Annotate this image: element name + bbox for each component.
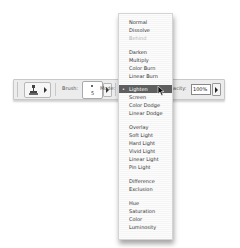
toolbar-grip[interactable] <box>17 82 18 97</box>
menu-item-dissolve[interactable]: Dissolve <box>119 26 172 34</box>
menu-item-luminosity[interactable]: Luminosity <box>119 223 172 231</box>
mode-label: Mode: <box>100 85 115 91</box>
opacity-slider-button[interactable] <box>212 83 221 96</box>
brush-tip-icon <box>91 85 93 87</box>
menu-item-linear-dodge[interactable]: Linear Dodge <box>119 109 172 117</box>
menu-item-darken[interactable]: Darken <box>119 48 172 56</box>
menu-item-linear-burn[interactable]: Linear Burn <box>119 72 172 80</box>
menu-item-vivid-light[interactable]: Vivid Light <box>119 147 172 155</box>
menu-item-pin-light[interactable]: Pin Light <box>119 163 172 171</box>
menu-item-exclusion[interactable]: Exclusion <box>119 185 172 193</box>
checkmark-icon: • <box>122 85 125 93</box>
menu-item-normal[interactable]: Normal <box>119 18 172 26</box>
menu-item-hue[interactable]: Hue <box>119 199 172 207</box>
menu-item-saturation[interactable]: Saturation <box>119 207 172 215</box>
menu-item-color-dodge[interactable]: Color Dodge <box>119 101 172 109</box>
menu-item-difference[interactable]: Difference <box>119 177 172 185</box>
blend-mode-menu: Normal Dissolve Behind Darken Multiply C… <box>118 13 173 240</box>
menu-item-color-burn[interactable]: Color Burn <box>119 64 172 72</box>
menu-item-multiply[interactable]: Multiply <box>119 56 172 64</box>
brush-label: Brush: <box>62 85 78 91</box>
menu-item-color[interactable]: Color <box>119 215 172 223</box>
menu-item-behind: Behind <box>119 34 172 42</box>
opacity-input[interactable]: 100% <box>191 84 211 95</box>
menu-item-overlay[interactable]: Overlay <box>119 123 172 131</box>
mouse-pointer-icon <box>157 86 165 96</box>
menu-item-soft-light[interactable]: Soft Light <box>119 131 172 139</box>
dropdown-arrow-icon <box>44 87 47 93</box>
menu-item-linear-light[interactable]: Linear Light <box>119 155 172 163</box>
clone-stamp-icon <box>29 85 38 95</box>
toolbar-divider <box>55 83 56 96</box>
menu-item-hard-light[interactable]: Hard Light <box>119 139 172 147</box>
tool-preset-picker[interactable] <box>24 82 51 98</box>
